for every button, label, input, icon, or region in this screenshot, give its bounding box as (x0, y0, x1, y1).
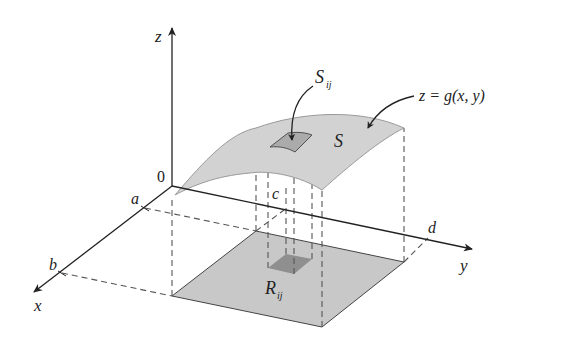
bound-a-label: a (131, 190, 139, 207)
surface-area-diagram: z x y 0 a b c d S z = g(x, y) S ij R ij (0, 0, 579, 343)
y-axis-label: y (458, 256, 468, 275)
svg-text:S: S (315, 67, 324, 87)
svg-text:ij: ij (277, 290, 283, 301)
surface-equation-label: z = g(x, y) (418, 87, 485, 105)
bound-d-label: d (428, 219, 437, 236)
region-R (172, 231, 404, 327)
a-dash-line (145, 208, 256, 231)
surface-S-label: S (334, 131, 343, 151)
x-axis-label: x (33, 296, 42, 315)
origin-label: 0 (157, 168, 165, 185)
z-axis-label: z (154, 27, 162, 46)
surface-S (175, 114, 404, 195)
d-dash-line (404, 238, 428, 262)
bound-c-label: c (272, 185, 279, 202)
svg-text:R: R (264, 278, 276, 298)
bound-b-label: b (49, 256, 57, 273)
patch-Sij-label: S ij (315, 67, 332, 90)
svg-text:ij: ij (326, 79, 332, 90)
c-dash-line (256, 210, 284, 231)
b-dash-line (62, 273, 172, 296)
x-axis (34, 186, 172, 292)
